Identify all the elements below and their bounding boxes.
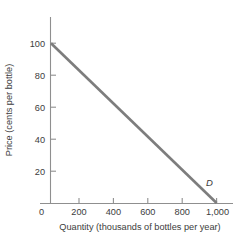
x-tick-label-0: 0: [39, 207, 44, 217]
y-tick-label-100: 100: [30, 39, 45, 49]
demand-curve-chart: 100 80 60 40 20 0 200 400 600 800 1,000 …: [0, 0, 249, 240]
x-tick-label-200: 200: [71, 207, 86, 217]
x-tick-label-1000: 1,000: [206, 207, 229, 217]
y-tick-label-20: 20: [35, 167, 45, 177]
chart-canvas: 100 80 60 40 20 0 200 400 600 800 1,000 …: [0, 0, 249, 240]
x-tick-label-800: 800: [175, 207, 190, 217]
x-axis-title: Quantity (thousands of bottles per year): [59, 222, 220, 232]
y-tick-label-60: 60: [35, 103, 45, 113]
demand-curve-line: [51, 43, 217, 203]
demand-curve-label: D: [206, 177, 213, 188]
x-tick-label-600: 600: [140, 207, 155, 217]
y-axis-title: Price (cents per bottle): [4, 64, 14, 156]
x-tick-label-400: 400: [106, 207, 121, 217]
y-tick-label-40: 40: [35, 135, 45, 145]
y-tick-label-80: 80: [35, 71, 45, 81]
